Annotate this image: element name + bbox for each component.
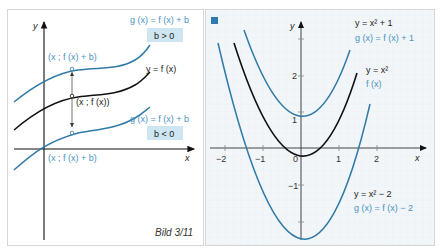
middle-point xyxy=(70,94,74,98)
upper-point xyxy=(70,67,74,71)
left-x-label: x xyxy=(184,153,190,163)
b-positive-label: b > 0 xyxy=(154,31,174,41)
middle-f-label: f (x) xyxy=(366,79,382,89)
upper-equation: y = x² + 1 xyxy=(355,18,393,28)
lower-point-label: (x ; f (x) + b) xyxy=(48,153,97,163)
upper-g-label: g (x) = f (x) + 1 xyxy=(355,33,414,43)
right-y-label: y xyxy=(289,21,295,31)
x-tick-2: 2 xyxy=(374,154,379,164)
right-panel: −2 −1 0 1 2 2 1 −1 y x y = x² + 1 g (x) … xyxy=(206,10,435,246)
lower-g-label: g (x) = f (x) − 2 xyxy=(354,203,413,213)
y-tick-neg1: −1 xyxy=(288,181,298,191)
b-negative-label: b < 0 xyxy=(154,129,174,139)
upper-point-label: (x ; f (x) + b) xyxy=(48,52,97,62)
x-tick-1: 1 xyxy=(336,154,341,164)
middle-point-label: (x ; f (x)) xyxy=(76,97,110,107)
y-tick-2: 2 xyxy=(292,71,297,81)
right-x-label: x xyxy=(414,153,420,163)
lower-point xyxy=(70,131,74,135)
figure-caption: Bild 3/11 xyxy=(155,227,193,238)
middle-equation: y = x² xyxy=(366,65,388,75)
lower-curve-label: g (x) = f (x) + b xyxy=(130,114,189,124)
function-label: y = f (x) xyxy=(146,64,176,74)
left-panel: y x g (x) = f (x) + b b > 0 (x ; f (x) +… xyxy=(8,10,204,246)
figure-stage: y x g (x) = f (x) + b b > 0 (x ; f (x) +… xyxy=(0,0,442,252)
section-marker xyxy=(211,17,218,24)
lower-equation: y = x² − 2 xyxy=(354,189,392,199)
upper-curve-label: g (x) = f (x) + b xyxy=(130,15,189,25)
x-tick-neg2: −2 xyxy=(216,154,226,164)
x-tick-neg1: −1 xyxy=(255,154,265,164)
left-y-label: y xyxy=(32,21,38,31)
y-tick-1: 1 xyxy=(292,115,297,125)
